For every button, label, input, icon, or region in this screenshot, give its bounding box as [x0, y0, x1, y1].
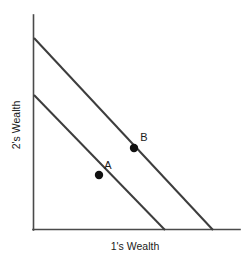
data-point-b-label: B: [140, 131, 147, 143]
y-axis-title: 2's Wealth: [10, 101, 22, 150]
chart-background: [0, 0, 250, 259]
data-point-a-label: A: [104, 159, 112, 171]
data-point-b: [130, 144, 138, 152]
chart-figure: A B 2's Wealth 1's Wealth: [0, 0, 250, 259]
data-point-a: [95, 171, 103, 179]
wealth-budget-line-chart: A B 2's Wealth 1's Wealth: [0, 0, 250, 259]
x-axis-title: 1's Wealth: [111, 240, 160, 252]
